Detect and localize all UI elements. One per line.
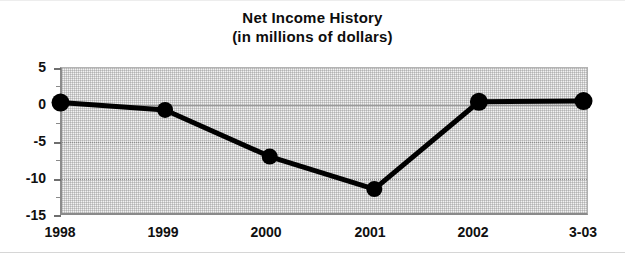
ytick-5 (54, 68, 61, 70)
xtick-label-2000: 2000 (221, 224, 311, 240)
ytick-label-minus-5: -5 (0, 134, 46, 148)
gridline-minus-5 (62, 142, 587, 143)
xtick-label-1999: 1999 (118, 224, 208, 240)
chart-title-block: Net Income History (in millions of dolla… (0, 8, 625, 46)
ytick-minor-minus-7p5 (56, 160, 61, 161)
chart-figure: Net Income History (in millions of dolla… (0, 0, 625, 265)
plot-area (60, 67, 588, 215)
chart-subtitle: (in millions of dollars) (0, 27, 625, 46)
gridline-0 (62, 105, 587, 106)
scan-artifact-line-top (0, 0, 625, 1)
ytick-minus-15 (54, 215, 61, 217)
gridline-minus-10 (62, 179, 587, 180)
scan-artifact-line-bottom (0, 252, 625, 253)
ytick-label-0: 0 (0, 97, 46, 111)
ytick-0 (54, 105, 61, 107)
xtick-label-2002: 2002 (428, 224, 518, 240)
xtick-label-1998: 1998 (15, 224, 105, 240)
xtick-label-3-03: 3-03 (538, 224, 625, 240)
ytick-minor-minus-2p5 (56, 123, 61, 124)
ytick-minor-minus-12p5 (56, 197, 61, 198)
ytick-label-minus-10: -10 (0, 171, 46, 185)
ytick-label-minus-15: -15 (0, 208, 46, 222)
ytick-minus-5 (54, 142, 61, 144)
xtick-label-2001: 2001 (325, 224, 415, 240)
ytick-minor-2p5 (56, 86, 61, 87)
ytick-minus-10 (54, 179, 61, 181)
ytick-label-5: 5 (0, 60, 46, 74)
chart-title: Net Income History (0, 8, 625, 27)
